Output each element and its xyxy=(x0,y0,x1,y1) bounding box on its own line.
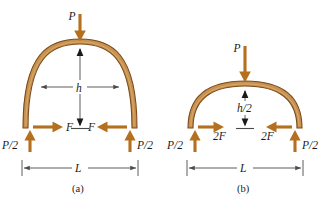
load-arrow-b xyxy=(239,46,251,83)
reaction-right-b xyxy=(289,130,300,152)
panel-caption-b: (b) xyxy=(237,183,250,195)
height-label-b: h/2 xyxy=(237,102,252,114)
load-label-b: P xyxy=(233,42,241,54)
span-label-b: L xyxy=(239,162,246,174)
horizontal-force-right-label-a: F xyxy=(87,121,96,133)
horizontal-force-right-a xyxy=(97,122,127,133)
reaction-left-label-b: P/2 xyxy=(166,139,183,151)
reaction-left-b xyxy=(189,130,200,152)
horizontal-force-left-label-b: 2F xyxy=(213,130,227,142)
load-arrow-a xyxy=(74,14,86,42)
panel-caption-a: (a) xyxy=(72,183,84,195)
reaction-left-label-a: P/2 xyxy=(1,139,18,151)
horizontal-force-left-a xyxy=(33,122,63,133)
panel-b: P h/2 2F 2F P/2 xyxy=(166,42,318,195)
height-label-a: h xyxy=(76,82,82,94)
span-label-a: L xyxy=(74,162,81,174)
reaction-left-a xyxy=(24,130,35,152)
horizontal-force-right-label-b: 2F xyxy=(261,130,275,142)
horizontal-force-left-label-a: F xyxy=(65,121,74,133)
reaction-right-a xyxy=(124,130,135,152)
arch-free-body-figure: P h F F P/2 xyxy=(0,0,329,200)
reaction-right-label-a: P/2 xyxy=(136,139,153,151)
load-label-a: P xyxy=(68,10,76,22)
panel-a: P h F F P/2 xyxy=(1,10,153,195)
reaction-right-label-b: P/2 xyxy=(301,139,318,151)
